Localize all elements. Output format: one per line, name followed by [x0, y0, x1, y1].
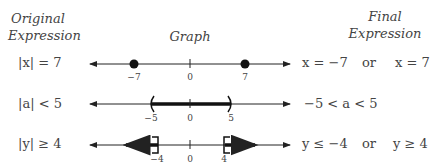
row2-tick-left: −5	[144, 113, 158, 123]
row1-tick-zero: 0	[187, 72, 193, 82]
row3-tick-left: −4	[150, 154, 164, 164]
row2-tick-right: 5	[228, 113, 234, 123]
row1-final-right: x = 7	[395, 55, 430, 70]
row3-final-right: y ≥ 4	[393, 136, 428, 151]
row2-number-line: −5 0 5	[90, 96, 290, 123]
row2-tick-zero: 0	[187, 113, 193, 123]
row1-connector: or	[362, 55, 376, 70]
row3-final-left: y ≤ −4	[302, 136, 348, 151]
row1-final-left: x = −7	[302, 55, 348, 70]
row3-connector: or	[362, 136, 376, 151]
row3-tick-right: 4	[221, 154, 227, 164]
closed-dot-7	[241, 60, 250, 69]
row2-final: −5 < a < 5	[304, 96, 378, 111]
row1-number-line: −7 0 7	[90, 59, 290, 82]
row3-tick-zero: 0	[187, 154, 193, 164]
row1-tick-left: −7	[127, 72, 141, 82]
row1-tick-right: 7	[242, 72, 248, 82]
row3-number-line: −4 0 4	[90, 137, 290, 164]
closed-dot-neg7	[130, 60, 139, 69]
